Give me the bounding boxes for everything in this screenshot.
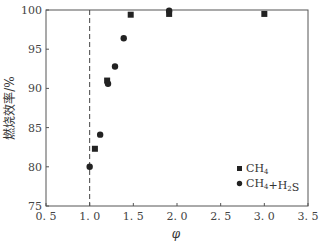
x-tick-label: 1. 5 [123, 210, 144, 223]
y-axis-title: 燃烧效率/% [2, 76, 17, 139]
plot-frame [46, 10, 308, 206]
square-marker [128, 12, 134, 18]
y-tick-label: 80 [28, 161, 42, 174]
legend: CH4CH4+H2S [237, 162, 300, 194]
circle-marker [166, 8, 172, 14]
x-tick-label: 3. 0 [254, 210, 275, 223]
circle-marker [112, 63, 118, 69]
scatter-chart: 0. 51. 01. 52. 02. 53. 03. 5758085909510… [0, 0, 321, 245]
square-marker [261, 11, 267, 17]
legend-label: CH4 [246, 162, 269, 176]
x-axis-title: φ [172, 227, 181, 241]
legend-square-icon [237, 166, 242, 171]
x-tick-label: 3. 5 [298, 210, 319, 223]
y-tick-label: 95 [28, 43, 42, 56]
x-tick-label: 2. 0 [167, 210, 188, 223]
y-tick-label: 100 [21, 4, 42, 17]
circle-marker [121, 35, 127, 41]
legend-label: CH4+H2S [246, 177, 299, 194]
circle-marker [86, 164, 92, 170]
x-tick-label: 2. 5 [210, 210, 231, 223]
legend-circle-icon [237, 181, 242, 186]
x-tick-label: 1. 0 [79, 210, 100, 223]
y-tick-label: 85 [28, 122, 42, 135]
plot-border [46, 10, 308, 206]
square-marker [92, 146, 98, 152]
circle-marker [105, 80, 111, 86]
y-tick-label: 90 [28, 82, 42, 95]
y-tick-label: 75 [28, 200, 42, 213]
data-points [86, 8, 267, 170]
circle-marker [97, 131, 103, 137]
